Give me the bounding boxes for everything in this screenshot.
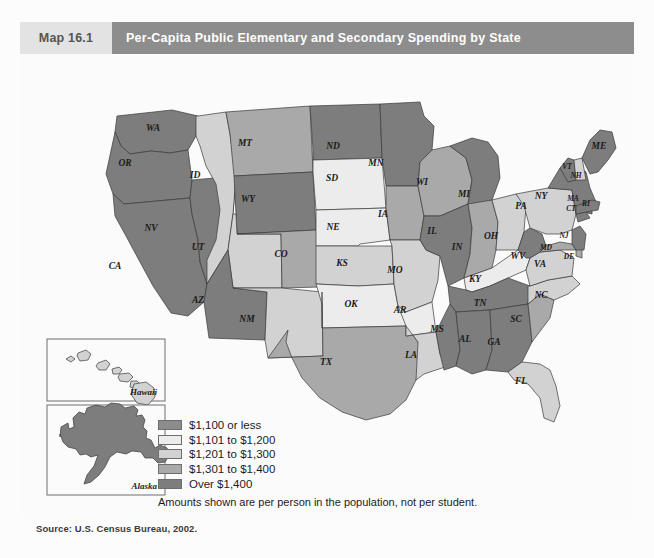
state-ia: [386, 186, 424, 240]
state-label-me: ME: [591, 141, 607, 151]
state-label-nc: NC: [533, 290, 548, 300]
state-label-mi: MI: [457, 189, 470, 199]
state-label-ar: AR: [393, 305, 407, 315]
state-label-ne: NE: [325, 222, 339, 232]
state-ok: [316, 284, 406, 328]
legend-swatch: [158, 435, 182, 445]
state-label-in: IN: [451, 242, 464, 252]
state-label-ks: KS: [335, 258, 348, 268]
figure-header: Map 16.1 Per-Capita Public Elementary an…: [20, 22, 634, 54]
state-label-il: IL: [426, 226, 437, 236]
hawaii-inset: Hawaii: [47, 339, 165, 405]
state-label-sc: SC: [510, 314, 522, 324]
state-label-oh: OH: [484, 231, 499, 241]
state-ks: [316, 246, 394, 286]
hawaii-inset-label: Hawaii: [129, 387, 158, 397]
state-label-wi: WI: [416, 177, 428, 187]
state-label-ct: CT: [566, 204, 576, 213]
legend-swatch: [158, 420, 182, 430]
state-label-or: OR: [118, 158, 131, 168]
state-label-wy: WY: [241, 194, 256, 204]
state-label-wv: WV: [511, 251, 526, 261]
state-label-id: ID: [189, 170, 201, 180]
legend-label: Over $1,400: [189, 478, 252, 490]
legend-item: $1,301 to $1,400: [158, 462, 275, 477]
state-label-nh: NH: [569, 171, 582, 180]
screenshot-root: Map 16.1 Per-Capita Public Elementary an…: [0, 0, 654, 558]
map-body: WAORCANVIDMTWYUTAZNMCONDSDNEKSOKTXMNIAMO…: [20, 54, 634, 518]
state-label-ma: MA: [566, 194, 579, 203]
legend-label: $1,100 or less: [189, 419, 261, 431]
state-label-ia: IA: [377, 209, 388, 219]
legend-item: $1,100 or less: [158, 418, 275, 433]
page-title: Per-Capita Public Elementary and Seconda…: [112, 22, 634, 54]
state-label-va: VA: [534, 259, 546, 269]
state-label-md: MD: [539, 243, 553, 252]
legend-item: $1,201 to $1,300: [158, 447, 275, 462]
state-label-ri: RI: [581, 199, 591, 208]
state-label-az: AZ: [191, 295, 204, 305]
state-label-nm: NM: [238, 314, 255, 324]
state-label-sd: SD: [326, 173, 338, 183]
legend: $1,100 or less$1,101 to $1,200$1,201 to …: [158, 418, 275, 491]
state-nj: [572, 226, 586, 250]
alaska-inset-label: Alaska: [130, 481, 157, 491]
map-figure-card: Map 16.1 Per-Capita Public Elementary an…: [20, 22, 634, 518]
legend-item: $1,101 to $1,200: [158, 433, 275, 448]
state-me: [582, 130, 616, 174]
us-choropleth-map: WAORCANVIDMTWYUTAZNMCONDSDNEKSOKTXMNIAMO…: [20, 54, 634, 518]
legend-item: Over $1,400: [158, 476, 275, 491]
legend-label: $1,301 to $1,400: [189, 463, 275, 475]
state-label-co: CO: [274, 249, 287, 259]
state-label-ut: UT: [192, 242, 206, 252]
state-label-ky: KY: [468, 274, 482, 284]
source-note: Source: U.S. Census Bureau, 2002.: [36, 523, 197, 534]
state-label-mt: MT: [237, 138, 253, 148]
legend-note: Amounts shown are per person in the popu…: [158, 496, 477, 508]
state-label-mo: MO: [386, 265, 402, 275]
state-label-mn: MN: [367, 158, 384, 168]
legend-label: $1,101 to $1,200: [189, 434, 275, 446]
state-nd: [310, 104, 382, 160]
state-label-nv: NV: [143, 223, 158, 233]
legend-label: $1,201 to $1,300: [189, 448, 275, 460]
state-label-tn: TN: [474, 298, 488, 308]
state-label-fl: FL: [514, 376, 527, 386]
state-label-ny: NY: [534, 191, 549, 201]
state-label-ga: GA: [487, 337, 500, 347]
state-label-al: AL: [458, 334, 471, 344]
state-label-vt: VT: [562, 162, 572, 171]
alaska-inset: Alaska: [47, 403, 169, 495]
state-label-ok: OK: [344, 299, 358, 309]
legend-swatch: [158, 464, 182, 474]
state-label-nj: NJ: [558, 231, 568, 240]
state-label-ms: MS: [429, 324, 444, 334]
legend-swatch: [158, 449, 182, 459]
state-label-tx: TX: [320, 357, 333, 367]
state-label-wa: WA: [146, 123, 160, 133]
state-label-la: LA: [404, 350, 417, 360]
legend-swatch: [158, 479, 182, 489]
state-fl: [508, 362, 560, 422]
state-label-pa: PA: [515, 201, 526, 211]
state-label-ca: CA: [109, 261, 122, 271]
state-label-nd: ND: [325, 141, 340, 151]
map-number-label: Map 16.1: [20, 22, 112, 54]
state-label-de: DE: [563, 252, 574, 261]
